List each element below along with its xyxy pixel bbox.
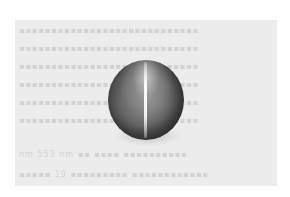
background-text-line: ▪▪▪▪▪▪▪▪▪▪▪▪▪▪▪▪▪▪▪▪▪▪▪▪▪▪▪▪ <box>19 26 273 35</box>
page: ▪▪▪▪▪▪▪▪▪▪▪▪▪▪▪▪▪▪▪▪▪▪▪▪▪▪▪▪ ▪▪▪▪▪▪▪▪▪▪▪… <box>0 0 290 197</box>
chatoyant-eye-band <box>144 62 147 138</box>
cats-eye-gemstone <box>108 60 184 140</box>
background-text-line: ▪▪▪▪▪▪▪▪▪▪▪▪▪▪▪▪▪▪▪▪▪▪▪▪▪▪▪▪ <box>19 44 273 53</box>
background-text-line: nm 553 nm ▪▪ ▪▪▪▪ ▪▪▪▪▪▪▪▪▪▪ <box>19 150 273 159</box>
background-text-line: ▪▪▪▪▪ 19 ▪▪▪▪▪▪▪▪▪ ▪▪▪▪▪▪▪▪▪▪▪▪ <box>19 170 273 179</box>
